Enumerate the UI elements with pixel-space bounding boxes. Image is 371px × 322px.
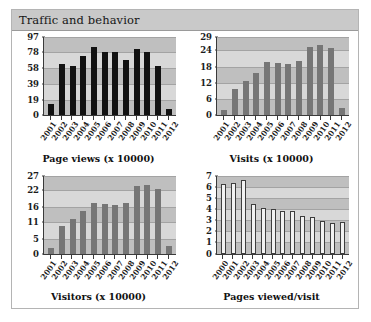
bar (80, 56, 86, 115)
page-title: Traffic and behavior (19, 13, 140, 27)
chart-caption-page-views: Page views (x 10000) (12, 153, 185, 164)
bar-series-page-views (44, 37, 176, 115)
bar (340, 222, 345, 253)
panel-header: Traffic and behavior (12, 10, 358, 31)
y-tick-label: 97 (27, 32, 39, 42)
x-axis-label: 2012 (170, 120, 176, 152)
chart-pages-viewed-per-visit: 01234567 2000200120022003200420052006200… (185, 170, 358, 309)
bar (155, 189, 161, 254)
bar (317, 45, 323, 115)
bar (264, 62, 270, 115)
bar (134, 49, 140, 115)
y-axis-visitors: 0511162227 (20, 176, 42, 254)
chart-cell-page-views: 01939587897 2001200220032004200520062007… (12, 31, 185, 170)
y-tick-label: 29 (200, 32, 212, 42)
bar (285, 64, 291, 115)
x-axis-label: 2012 (170, 259, 176, 291)
bar (253, 73, 259, 115)
bar (48, 248, 54, 254)
bar (339, 108, 345, 115)
bar (221, 184, 226, 253)
chart-caption-pages-viewed-per-visit: Pages viewed/visit (185, 291, 358, 302)
bar (166, 246, 172, 254)
bar (328, 48, 334, 115)
plot-area-visitors (43, 176, 176, 255)
x-axis-labels-page-views: 2001200220032004200520062007200820092010… (43, 120, 181, 152)
bar (290, 211, 295, 253)
chart-visitors: 0511162227 20012002200320042005200620072… (12, 170, 185, 309)
x-axis-labels-visits: 2001200220032004200520062007200820092010… (216, 120, 354, 152)
bar (330, 223, 335, 253)
bar (144, 185, 150, 254)
bar (243, 81, 249, 115)
y-tick-label: 16 (27, 202, 39, 212)
screenshot-root: Traffic and behavior 01939587897 2001200… (0, 0, 371, 322)
chart-page-views: 01939587897 2001200220032004200520062007… (12, 31, 185, 170)
plot-area-pages-viewed-per-visit (216, 176, 349, 255)
bar (307, 47, 313, 115)
y-tick-label: 39 (27, 79, 39, 89)
bar-series-pages-viewed-per-visit (217, 176, 349, 254)
plot-area-page-views (43, 37, 176, 116)
y-tick-label: 18 (200, 62, 212, 72)
chart-cell-pages-viewed-per-visit: 01234567 2000200120022003200420052006200… (185, 170, 358, 309)
x-axis-label: 2012 (344, 259, 349, 291)
y-tick-label: 24 (200, 45, 212, 55)
bar (241, 180, 246, 254)
y-tick-label: 5 (33, 234, 39, 244)
y-tick-label: 5 (206, 193, 212, 203)
bar (271, 209, 276, 254)
bar (134, 186, 140, 253)
bar-series-visitors (44, 176, 176, 254)
bar (70, 219, 76, 254)
bar (102, 52, 108, 115)
bar (251, 204, 256, 253)
x-axis-label: 2012 (343, 120, 349, 152)
y-tick-label: 2 (206, 226, 212, 236)
chart-caption-visits: Visits (x 10000) (185, 153, 358, 164)
bar (155, 66, 161, 115)
bar (80, 211, 86, 254)
y-tick-label: 11 (27, 217, 39, 227)
bar (91, 47, 97, 115)
y-tick-label: 12 (200, 78, 212, 88)
y-tick-label: 27 (27, 171, 39, 181)
bar-series-visits (217, 37, 349, 115)
chart-cell-visits: 0612182429 20012002200320042005200620072… (185, 31, 358, 170)
y-tick-label: 78 (27, 47, 39, 57)
y-tick-label: 6 (206, 94, 212, 104)
bar (59, 226, 65, 253)
y-tick-label: 19 (27, 95, 39, 105)
bar (59, 64, 65, 115)
chart-visits: 0612182429 20012002200320042005200620072… (185, 31, 358, 170)
y-tick-label: 0 (33, 110, 39, 120)
bar (112, 52, 118, 115)
plot-area-visits (216, 37, 349, 116)
y-axis-pages-viewed-per-visit: 01234567 (193, 176, 215, 254)
bar (320, 221, 325, 254)
bar (232, 89, 238, 115)
traffic-and-behavior-panel: Traffic and behavior 01939587897 2001200… (11, 9, 359, 309)
chart-caption-visitors: Visitors (x 10000) (12, 291, 185, 302)
chart-grid: 01939587897 2001200220032004200520062007… (12, 31, 358, 308)
bar (296, 61, 302, 115)
y-tick-label: 0 (33, 249, 39, 259)
bar (280, 211, 285, 254)
y-tick-label: 4 (206, 204, 212, 214)
bar (70, 66, 76, 115)
y-tick-label: 3 (206, 215, 212, 225)
y-tick-label: 0 (206, 249, 212, 259)
chart-cell-visitors: 0511162227 20012002200320042005200620072… (12, 170, 185, 309)
y-tick-label: 7 (206, 171, 212, 181)
bar (231, 183, 236, 253)
panel-body: 01939587897 2001200220032004200520062007… (12, 31, 358, 308)
bar (48, 104, 54, 115)
x-axis-labels-pages-viewed-per-visit: 2000200120022003200420052006200720082009… (216, 259, 354, 291)
bar (91, 203, 97, 254)
y-tick-label: 58 (27, 63, 39, 73)
bar (300, 216, 305, 253)
bar (123, 60, 129, 115)
y-axis-page-views: 01939587897 (20, 37, 42, 115)
y-tick-label: 22 (27, 185, 39, 195)
bar (261, 208, 266, 254)
